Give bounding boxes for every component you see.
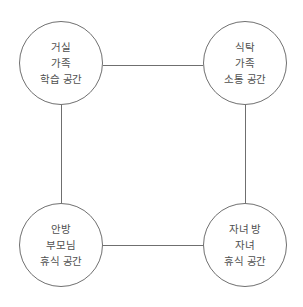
node-subject: 가족: [235, 55, 255, 71]
node-title: 자녀 방: [229, 221, 262, 237]
node-title: 안방: [51, 221, 71, 237]
node-title: 식탁: [235, 39, 255, 55]
node-subject: 가족: [51, 55, 71, 71]
node-childrens-room: 자녀 방 자녀 휴식 공간: [203, 203, 287, 287]
node-title: 거실: [51, 39, 71, 55]
node-subject: 부모님: [46, 237, 75, 253]
node-dining-table: 식탁 가족 소통 공간: [203, 21, 287, 105]
connector-dining-table-to-childrens-room: [245, 105, 246, 203]
node-purpose: 휴식 공간: [40, 253, 82, 269]
connector-master-bedroom-to-childrens-room: [103, 245, 203, 246]
connector-living-room-to-dining-table: [103, 65, 203, 66]
connector-living-room-to-master-bedroom: [61, 105, 62, 203]
family-space-diagram: 거실 가족 학습 공간 식탁 가족 소통 공간 안방 부모님 휴식 공간 자녀 …: [0, 0, 303, 307]
node-purpose: 휴식 공간: [224, 253, 266, 269]
node-subject: 자녀: [235, 237, 255, 253]
node-master-bedroom: 안방 부모님 휴식 공간: [19, 203, 103, 287]
node-purpose: 소통 공간: [224, 71, 266, 87]
node-living-room: 거실 가족 학습 공간: [19, 21, 103, 105]
node-purpose: 학습 공간: [40, 71, 82, 87]
